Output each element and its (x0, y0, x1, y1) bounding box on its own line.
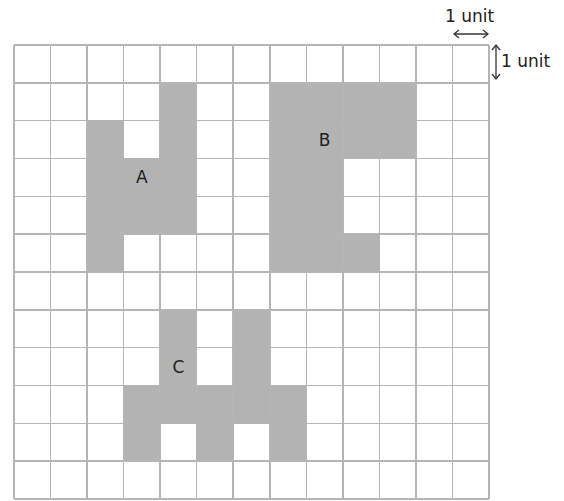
shape-b-cell (343, 234, 380, 272)
grid-line-horizontal (14, 498, 489, 500)
grid-line-horizontal (14, 233, 489, 235)
shape-c-cell (233, 310, 270, 348)
shape-b-cell (343, 83, 380, 121)
shape-a-cell (87, 121, 124, 159)
shape-a-cell (124, 196, 161, 234)
shape-c-cell (233, 348, 270, 386)
shape-c-label: C (172, 357, 184, 377)
grid-line-horizontal (14, 44, 489, 46)
grid-line-horizontal (14, 460, 489, 462)
shape-a-cell (160, 159, 197, 197)
grid-line-horizontal (14, 423, 489, 425)
shape-b-cell (270, 83, 307, 121)
shape-c-cell (197, 423, 234, 461)
shape-a-label: A (136, 167, 148, 187)
grid-line-horizontal (14, 309, 489, 311)
shape-a-cell (160, 83, 197, 121)
shape-b-cell (306, 83, 343, 121)
shape-a-cell (160, 121, 197, 159)
shape-b-cell (306, 196, 343, 234)
shape-c-cell (270, 423, 307, 461)
shape-b-cell (270, 159, 307, 197)
shape-b-cell (270, 121, 307, 159)
shape-a-cell (87, 159, 124, 197)
shape-c-cell (160, 310, 197, 348)
shape-b-cell (379, 83, 416, 121)
shape-c-cell (124, 423, 161, 461)
horizontal-unit-label: 1 unit (445, 6, 494, 26)
shape-b-label: B (319, 130, 331, 150)
shape-c-cell (160, 386, 197, 424)
grid-line-horizontal (14, 347, 489, 349)
shape-b-cell (379, 121, 416, 159)
unit-grid: ABC (14, 45, 489, 499)
shape-c-cell (233, 386, 270, 424)
shape-a-cell (87, 196, 124, 234)
grid-line-horizontal (14, 158, 489, 160)
grid-line-horizontal (14, 120, 489, 122)
shape-c-cell (124, 386, 161, 424)
shape-b-cell (270, 234, 307, 272)
shape-c-cell (197, 386, 234, 424)
shape-c-cell (270, 386, 307, 424)
shape-b-cell (306, 159, 343, 197)
shape-a-cell (87, 234, 124, 272)
shape-a-cell (160, 196, 197, 234)
shape-b-cell (306, 234, 343, 272)
shape-b-cell (270, 196, 307, 234)
horizontal-double-arrow-icon (452, 28, 490, 40)
vertical-unit-label: 1 unit (501, 51, 550, 71)
grid-line-horizontal (14, 82, 489, 84)
grid-line-horizontal (14, 271, 489, 273)
grid-line-horizontal (14, 196, 489, 198)
grid-line-horizontal (14, 385, 489, 387)
shape-b-cell (343, 121, 380, 159)
